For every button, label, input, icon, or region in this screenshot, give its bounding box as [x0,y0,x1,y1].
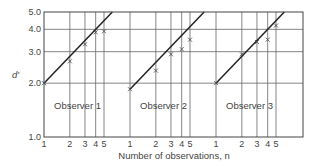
x-tick-label: 2 [67,139,72,149]
fit-lines [44,12,284,89]
x-axis-label: Number of observations, n [118,150,229,161]
observer-label: Observer 3 [226,100,273,111]
x-tick-label: 3 [168,139,173,149]
x-tick-label: 5 [101,139,106,149]
y-tick-label: 2.0 [28,78,41,88]
observer-label: Observer 2 [140,100,187,111]
x-axis-ticks: 123451234512345 [41,139,278,149]
x-tick-label: 1 [213,139,218,149]
grid-lines [44,12,303,137]
observer-label: Observer 1 [54,100,101,111]
y-axis-ticks: 1.02.03.04.05.0 [28,7,41,142]
x-tick-label: 5 [273,139,278,149]
fit-line [130,12,204,89]
x-tick-label: 4 [93,139,98,149]
chart: 1.02.03.04.05.0 123451234512345 Observer… [0,0,310,166]
x-tick-label: 4 [179,139,184,149]
y-tick-label: 3.0 [28,47,41,57]
x-tick-label: 4 [265,139,270,149]
x-tick-label: 3 [82,139,87,149]
fit-line [216,12,284,83]
y-tick-label: 5.0 [28,7,41,17]
x-tick-label: 5 [187,139,192,149]
plot-frame [44,12,303,137]
y-axis-label: d' [12,69,20,80]
x-tick-label: 1 [41,139,46,149]
observer-labels: Observer 1Observer 2Observer 3 [54,100,273,111]
x-tick-label: 2 [239,139,244,149]
y-tick-label: 1.0 [28,132,41,142]
fit-line [44,12,112,83]
x-tick-label: 1 [127,139,132,149]
x-tick-label: 2 [153,139,158,149]
x-tick-label: 3 [254,139,259,149]
y-tick-label: 4.0 [28,24,41,34]
